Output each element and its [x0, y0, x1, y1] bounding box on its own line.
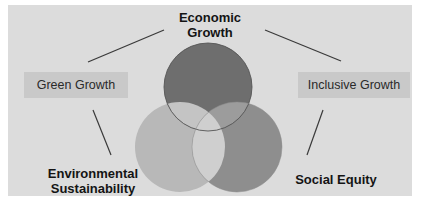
- label-environmental-line2: Sustainability: [40, 181, 146, 196]
- connector-inclusive-to-economic: [265, 30, 341, 61]
- label-green-growth: Green Growth: [37, 78, 116, 92]
- connector-inclusive-to-social: [307, 110, 323, 155]
- connector-green-to-economic: [88, 30, 164, 62]
- label-economic-growth-line1: Economic: [168, 10, 252, 25]
- label-social-equity: Social Equity: [284, 172, 388, 187]
- box-green-growth: Green Growth: [24, 72, 128, 98]
- label-social-equity-text: Social Equity: [295, 172, 377, 187]
- box-inclusive-growth: Inclusive Growth: [298, 72, 410, 98]
- label-economic-growth-line2: Growth: [168, 25, 252, 40]
- label-economic-growth: Economic Growth: [168, 10, 252, 40]
- label-environmental-line1: Environmental: [40, 166, 146, 181]
- connector-green-to-environmental: [93, 110, 111, 155]
- label-environmental-sustainability: Environmental Sustainability: [40, 166, 146, 196]
- label-inclusive-growth: Inclusive Growth: [308, 78, 400, 92]
